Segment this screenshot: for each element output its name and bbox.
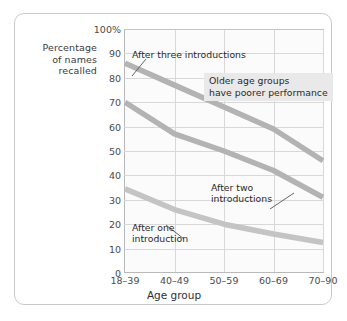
x-axis-tick-label: 60–69 [259, 275, 288, 286]
chart-frame: Percentage of names recalled 01020304050… [14, 13, 332, 305]
x-axis-tick-label: 40–49 [160, 275, 189, 286]
annotation-note-older-age-groups: Older age groups have poorer performance [204, 73, 333, 101]
y-axis-tick-labels: 0102030405060708090100% [79, 29, 121, 273]
y-axis-tick-label: 40 [81, 170, 121, 181]
annotation-after-one-line-2: introduction [132, 233, 188, 244]
note-line-1: Older age groups [209, 75, 328, 87]
annotation-after-two-introductions: After two introductions [211, 182, 272, 204]
x-axis-tick-label: 18–39 [111, 275, 140, 286]
x-axis-tick-label: 70–90 [309, 275, 338, 286]
x-axis-tick-label: 50–59 [210, 275, 239, 286]
x-axis-title: Age group [15, 289, 333, 301]
annotation-after-two-line-1: After two [211, 182, 272, 193]
y-axis-tick-label: 20 [81, 219, 121, 230]
y-axis-tick-label: 30 [81, 194, 121, 205]
y-axis-tick-label: 60 [81, 121, 121, 132]
y-axis-tick-label: 90 [81, 48, 121, 59]
annotation-after-three-line-1: After three introductions [132, 49, 246, 60]
y-axis-tick-label: 80 [81, 72, 121, 83]
annotation-after-three-introductions: After three introductions [132, 49, 246, 60]
leader-line [270, 193, 294, 209]
y-axis-tick-label: 10 [81, 243, 121, 254]
x-axis-tick-labels: 18–3940–4950–5960–6970–90 [124, 275, 324, 289]
y-axis-tick-label: 50 [81, 146, 121, 157]
annotation-after-one-line-1: After one [132, 222, 188, 233]
annotation-after-two-line-2: introductions [211, 193, 272, 204]
annotation-after-one-introduction: After one introduction [132, 222, 188, 244]
y-axis-tick-label: 100% [81, 24, 121, 35]
leader-line [132, 59, 146, 76]
y-axis-tick-label: 70 [81, 97, 121, 108]
note-line-2: have poorer performance [209, 87, 328, 99]
